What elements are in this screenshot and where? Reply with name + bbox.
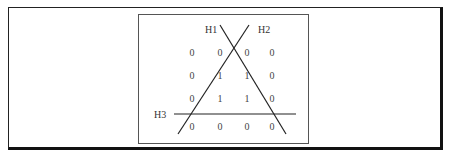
label-h1: H1 <box>205 24 217 35</box>
grid-cell: 0 <box>218 121 223 132</box>
grid-cell: 0 <box>270 70 275 81</box>
grid-cell: 0 <box>190 121 195 132</box>
label-h2: H2 <box>258 24 270 35</box>
grid-cell: 0 <box>190 93 195 104</box>
grid-cell: 0 <box>190 47 195 58</box>
grid-cell: 0 <box>245 47 250 58</box>
diagram-canvas: H1H2H3 0000011001100000 <box>0 0 454 163</box>
grid-cell: 0 <box>190 70 195 81</box>
grid-cell: 1 <box>218 70 223 81</box>
grid-cell: 0 <box>270 93 275 104</box>
grid-cell: 1 <box>245 70 250 81</box>
grid-cell: 1 <box>218 93 223 104</box>
grid-cell: 0 <box>218 47 223 58</box>
grid-cell: 0 <box>245 121 250 132</box>
grid-cell: 1 <box>245 93 250 104</box>
grid-cell: 0 <box>270 47 275 58</box>
grid-cell: 0 <box>270 121 275 132</box>
label-h3: H3 <box>154 109 166 120</box>
line-labels: H1H2H3 <box>154 24 270 120</box>
grid-values: 0000011001100000 <box>190 47 275 132</box>
line-h1 <box>220 25 286 134</box>
